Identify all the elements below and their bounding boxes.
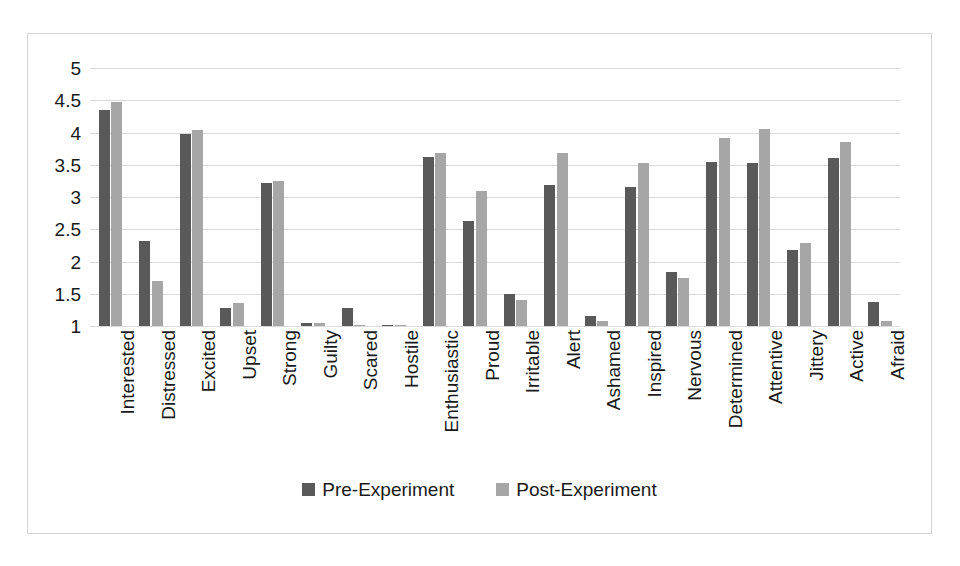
gridline [90, 326, 900, 327]
bar-pre [342, 308, 353, 326]
bar-pre [220, 308, 231, 326]
x-axis-category-label: Enthusiastic [442, 330, 461, 432]
x-axis-category-label: Interested [118, 330, 137, 415]
bar-pre [544, 185, 555, 326]
legend-swatch-icon [302, 483, 315, 496]
bar-pre [706, 162, 717, 326]
bar-pre [180, 134, 191, 326]
x-axis-category-label: Determined [726, 330, 745, 428]
bar-pre [99, 110, 110, 326]
x-axis-category-label: Hostile [402, 330, 421, 388]
bar-group [779, 68, 820, 326]
bar-group [333, 68, 374, 326]
bar-group [738, 68, 779, 326]
x-axis-category-label: Active [847, 330, 866, 382]
y-axis-tick-label: 4.5 [55, 91, 81, 110]
bar-post [881, 321, 892, 326]
x-axis-category-label: Attentive [766, 330, 785, 404]
x-axis-category-label: Strong [280, 330, 299, 386]
chart-frame: 11.522.533.544.55 InterestedDistressedEx… [27, 33, 932, 534]
bar-post [395, 325, 406, 326]
x-axis-category-label: Afraid [888, 330, 907, 380]
bar-group [819, 68, 860, 326]
bar-post [840, 142, 851, 326]
bar-post [435, 153, 446, 326]
bar-pre [747, 163, 758, 326]
bar-pre [463, 221, 474, 326]
chart-legend: Pre-ExperimentPost-Experiment [28, 480, 931, 499]
x-axis-category-label: Guilty [321, 330, 340, 379]
bar-group [455, 68, 496, 326]
bar-post [638, 163, 649, 326]
x-axis-category-label: Distressed [159, 330, 178, 420]
x-axis-category-label: Irritable [523, 330, 542, 393]
bar-post [759, 129, 770, 326]
bar-pre [382, 325, 393, 326]
bar-post [800, 243, 811, 326]
bar-pre [625, 187, 636, 326]
bar-group [374, 68, 415, 326]
bar-post [314, 323, 325, 326]
legend-item[interactable]: Pre-Experiment [302, 480, 454, 499]
bar-pre [423, 157, 434, 326]
bar-group [171, 68, 212, 326]
y-axis-tick-label: 4 [70, 123, 81, 142]
bar-group [212, 68, 253, 326]
x-axis-category-label: Nervous [685, 330, 704, 401]
bar-series-layer [90, 68, 900, 326]
bar-group [860, 68, 901, 326]
bar-group [293, 68, 334, 326]
bar-post [719, 138, 730, 326]
legend-swatch-icon [496, 483, 509, 496]
x-axis-category-label: Upset [240, 330, 259, 380]
bar-group [617, 68, 658, 326]
bar-group [414, 68, 455, 326]
bar-group [252, 68, 293, 326]
x-axis-category-labels: InterestedDistressedExcitedUpsetStrongGu… [90, 330, 900, 480]
bar-group [90, 68, 131, 326]
bar-group [131, 68, 172, 326]
x-axis-category-label: Inspired [645, 330, 664, 398]
bar-post [152, 281, 163, 326]
bar-post [233, 303, 244, 326]
bar-post [678, 278, 689, 326]
legend-item[interactable]: Post-Experiment [496, 480, 656, 499]
x-axis-category-label: Alert [564, 330, 583, 369]
y-axis-tick-label: 3.5 [55, 155, 81, 174]
bar-post [476, 191, 487, 326]
legend-label: Pre-Experiment [322, 480, 454, 499]
bar-group [657, 68, 698, 326]
y-axis-tick-label: 2.5 [55, 220, 81, 239]
y-axis-tick-label: 1.5 [55, 284, 81, 303]
y-axis-tick-label: 2 [70, 252, 81, 271]
y-axis-tick-label: 5 [70, 59, 81, 78]
bar-group [536, 68, 577, 326]
bar-post [557, 153, 568, 326]
bar-pre [828, 158, 839, 326]
bar-pre [787, 250, 798, 326]
y-axis-tick-label: 3 [70, 188, 81, 207]
x-axis-category-label: Ashamed [604, 330, 623, 410]
bar-pre [868, 302, 879, 327]
bar-pre [666, 272, 677, 326]
bar-pre [504, 294, 515, 326]
bar-post [516, 300, 527, 326]
x-axis-category-label: Jittery [807, 330, 826, 381]
y-axis-tick-label: 1 [70, 317, 81, 336]
bar-pre [585, 316, 596, 326]
bar-pre [139, 241, 150, 326]
bar-group [698, 68, 739, 326]
x-axis-category-label: Scared [361, 330, 380, 390]
x-axis-category-label: Proud [483, 330, 502, 381]
bar-pre [261, 183, 272, 326]
legend-label: Post-Experiment [516, 480, 656, 499]
x-axis-category-label: Excited [199, 330, 218, 392]
bar-group [576, 68, 617, 326]
bar-pre [301, 323, 312, 326]
bar-post [354, 325, 365, 326]
plot-area: 11.522.533.544.55 [90, 68, 900, 326]
bar-post [597, 321, 608, 326]
bar-post [192, 130, 203, 326]
bar-post [273, 181, 284, 326]
bar-post [111, 102, 122, 326]
